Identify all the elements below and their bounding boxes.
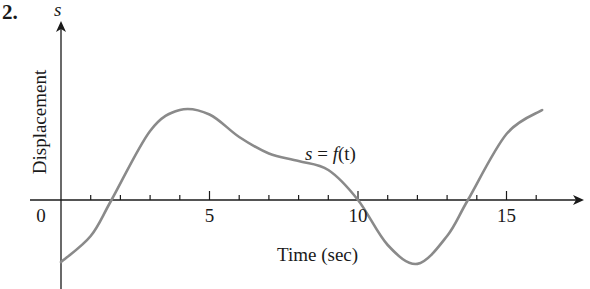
x-axis-label: Time (sec) [277,244,358,266]
function-label: s = f(t) [305,143,356,165]
x-tick-label: 10 [349,205,368,227]
function-label-eq: = [312,143,332,164]
x-tick-label: 5 [205,205,215,227]
x-tick-label: 0 [36,205,46,227]
function-label-t: (t) [338,143,356,164]
x-tick-label: 15 [497,205,516,227]
displacement-curve [61,109,542,264]
